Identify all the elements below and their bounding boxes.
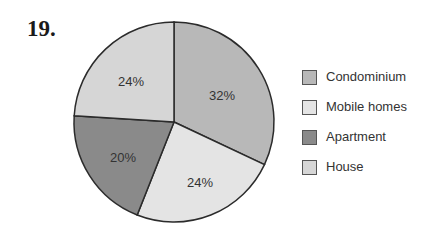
slice-label: 24% (118, 74, 144, 89)
swatch-mobile-homes (302, 100, 317, 115)
pie-slices (74, 22, 274, 222)
legend-label: House (326, 159, 364, 174)
swatch-house (302, 160, 317, 175)
pie-chart: 32%24%20%24% (0, 0, 428, 236)
swatch-apartment (302, 130, 317, 145)
pie-slice-house (74, 22, 174, 122)
slice-label: 32% (209, 88, 235, 103)
legend-label: Apartment (326, 129, 386, 144)
swatch-condominium (302, 70, 317, 85)
slice-label: 24% (187, 175, 213, 190)
legend-label: Mobile homes (326, 99, 407, 114)
slice-label: 20% (110, 150, 136, 165)
legend-label: Condominium (326, 69, 406, 84)
